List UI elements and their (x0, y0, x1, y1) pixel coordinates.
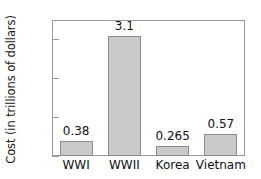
y-axis-title: Cost (in trillions of dollars) (0, 0, 22, 179)
bar (156, 146, 189, 156)
y-axis-tick (52, 39, 59, 40)
bar (204, 134, 237, 156)
x-axis-category-label: Vietnam (190, 158, 252, 172)
bar-value-label: 0.38 (46, 124, 106, 138)
bar (60, 141, 93, 156)
bar (108, 36, 141, 156)
y-axis-tick (52, 156, 59, 157)
y-axis-tick (52, 78, 59, 79)
bar-value-label: 3.1 (94, 19, 154, 33)
bar-chart: Cost (in trillions of dollars) 0123 0.38… (0, 0, 261, 179)
y-axis-tick (52, 117, 59, 118)
bar-value-label: 0.57 (191, 117, 251, 131)
